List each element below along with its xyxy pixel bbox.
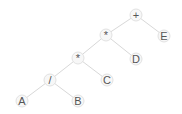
node-label: C <box>103 74 111 86</box>
node-B: B <box>72 95 84 107</box>
node-C: C <box>101 74 113 86</box>
node-label: D <box>132 53 140 65</box>
node-label: * <box>76 52 81 64</box>
node-A: A <box>16 95 28 107</box>
node-mul2: * <box>72 52 84 64</box>
node-D: D <box>130 53 142 65</box>
node-plus: + <box>130 9 142 21</box>
node-E: E <box>158 30 170 42</box>
node-label: + <box>133 9 139 21</box>
expression-tree-diagram: +*E*D/CAB <box>0 0 182 114</box>
node-label: * <box>104 29 109 41</box>
node-label: A <box>18 95 26 107</box>
node-div: / <box>44 74 56 86</box>
node-label: B <box>74 95 81 107</box>
node-mul1: * <box>100 29 112 41</box>
node-label: E <box>160 30 167 42</box>
tree-canvas: +*E*D/CAB <box>0 0 182 114</box>
